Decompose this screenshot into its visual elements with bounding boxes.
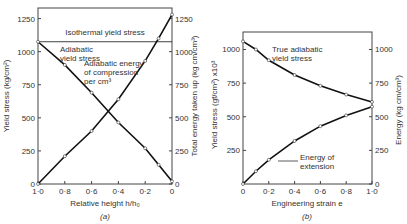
y-tick-label: 500: [227, 113, 241, 122]
chart-a: 1·00·80·60·40·20025050075010001250025050…: [2, 8, 199, 221]
y-right-axis-label: Energy (kg cm/cm³): [394, 75, 403, 145]
svg-text:Adiabatic: Adiabatic: [60, 45, 93, 54]
y-right-tick-label: 750: [175, 81, 189, 90]
y-axis-label: Yield stress (gf/cm²) x10³: [210, 60, 219, 149]
x-tick-label: 0·4: [289, 187, 301, 196]
y-right-tick-label: 500: [175, 114, 189, 123]
y-tick-label: 500: [22, 114, 36, 123]
y-right-tick-label: 500: [375, 113, 389, 122]
svg-text:Adiabatic energy: Adiabatic energy: [84, 59, 144, 68]
y-tick-label: 750: [22, 81, 36, 90]
y-tick-label: 1250: [17, 15, 35, 24]
y-tick-label: 0: [31, 180, 36, 189]
chart-b: 00·20·40·60·81·0250500750100002505007501…: [210, 32, 403, 221]
x-tick-label: 0·6: [86, 187, 98, 196]
y-axis-label: Yield stress (kg/cm²): [2, 59, 11, 132]
svg-text:of compression: of compression: [84, 68, 138, 77]
y-right-tick-label: 250: [375, 146, 389, 155]
x-tick-label: 0·8: [340, 187, 352, 196]
annotation: Isothermal yield stress: [65, 28, 145, 37]
x-axis-label: Engineering strain e: [271, 199, 343, 208]
x-tick-label: 0·2: [263, 187, 275, 196]
x-tick-label: 0: [241, 187, 246, 196]
panel-label: (b): [302, 212, 312, 221]
y-right-tick-label: 250: [175, 147, 189, 156]
panel-label: (a): [100, 212, 110, 221]
x-tick-label: 0·8: [59, 187, 71, 196]
x-tick-label: 0·6: [315, 187, 327, 196]
y-right-tick-label: 0: [175, 180, 180, 189]
y-tick-label: 750: [227, 79, 241, 88]
y-tick-label: 250: [22, 147, 36, 156]
x-axis-label: Relative height h/h₀: [70, 199, 140, 208]
y-right-tick-label: 0: [375, 180, 380, 189]
x-tick-label: 0·4: [113, 187, 125, 196]
y-tick-label: 1000: [17, 48, 35, 57]
y-tick-label: 1000: [222, 45, 240, 54]
x-tick-label: 0·2: [139, 187, 151, 196]
y-right-tick-label: 1000: [375, 45, 393, 54]
y-right-axis-label: Total energy taken up (kg cm/cm³): [190, 35, 199, 156]
svg-text:yield stress: yield stress: [272, 54, 312, 63]
y-right-tick-label: 1250: [175, 15, 193, 24]
svg-text:Energy of: Energy of: [300, 153, 335, 162]
series-line: [38, 15, 172, 184]
svg-text:extension: extension: [300, 162, 334, 171]
figure: 1·00·80·60·40·20025050075010001250025050…: [0, 0, 407, 224]
y-tick-label: 250: [227, 146, 241, 155]
series-line: [243, 107, 372, 184]
svg-text:True adiabatic: True adiabatic: [272, 45, 322, 54]
y-right-tick-label: 750: [375, 79, 389, 88]
svg-text:per cm³: per cm³: [84, 77, 111, 86]
